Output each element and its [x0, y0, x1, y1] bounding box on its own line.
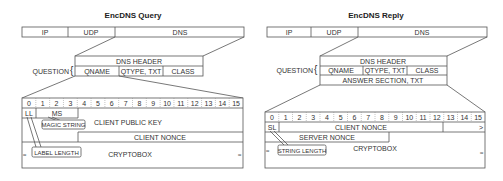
reply-byte-index: 12 — [433, 114, 441, 121]
ms-field: MS — [52, 110, 63, 117]
question-brace-icon: { — [314, 64, 318, 75]
string-length-callout: STRING LENGTH — [278, 148, 327, 154]
reply-byte-index: 5 — [339, 114, 343, 121]
query-byte-index: 3 — [68, 100, 72, 107]
query-title: EncDNS Query — [105, 11, 162, 20]
qname-label: QNAME — [84, 68, 110, 76]
encdns-reply-diagram: EncDNS Reply IP UDP DNS DNS HEADER QNAME… — [265, 11, 487, 168]
encdns-query-diagram: EncDNS Query IP UDP DNS DNS HEADER QNAME… — [22, 11, 244, 168]
query-byte-index: 12 — [191, 100, 199, 107]
question-label: QUESTION — [32, 68, 69, 76]
ip-label: IP — [286, 29, 293, 36]
dns-label: DNS — [415, 29, 430, 36]
server-nonce-field: SERVER NONCE — [299, 134, 355, 141]
reply-byte-index: 15 — [474, 114, 482, 121]
reply-answer-layout: 0123456789101112131415 SL CLIENT NONCE >… — [265, 112, 485, 168]
reply-byte-index: 8 — [380, 114, 384, 121]
query-byte-index: 13 — [205, 100, 213, 107]
reply-byte-index: 4 — [325, 114, 329, 121]
query-byte-index: 15 — [232, 100, 240, 107]
query-byte-index: 0 — [27, 100, 31, 107]
udp-label: UDP — [84, 29, 99, 36]
reply-byte-index: 6 — [352, 114, 356, 121]
reply-byte-index: 1 — [284, 114, 288, 121]
dns-header-label: DNS HEADER — [116, 58, 162, 65]
reply-byte-index: 9 — [394, 114, 398, 121]
query-byte-index: 9 — [151, 100, 155, 107]
client-nonce-field: CLIENT NONCE — [335, 124, 387, 131]
qname-label: QNAME — [328, 67, 354, 75]
reply-byte-index: 14 — [460, 114, 468, 121]
reply-byte-index: 0 — [270, 114, 274, 121]
continuation-arrow-icon: > — [479, 124, 483, 131]
client-nonce-field: CLIENT NONCE — [134, 134, 186, 141]
class-label: CLASS — [172, 68, 195, 75]
class-label: CLASS — [416, 67, 439, 74]
query-byte-index: 11 — [177, 100, 184, 107]
query-byte-index: 10 — [163, 100, 171, 107]
question-label: QUESTION — [276, 67, 313, 75]
reply-byte-index: 7 — [366, 114, 370, 121]
qtype-label: QTYPE, TXT — [365, 67, 406, 75]
magic-string-callout: MAGIC STRING — [41, 122, 85, 128]
cryptobox-field: CRYPTOBOX — [108, 151, 152, 158]
ip-label: IP — [42, 29, 49, 36]
query-byte-index: 6 — [110, 100, 114, 107]
query-byte-index: 4 — [82, 100, 86, 107]
dns-header-label: DNS HEADER — [360, 58, 406, 65]
query-byte-index: 7 — [124, 100, 128, 107]
query-byte-index: 14 — [218, 100, 226, 107]
udp-label: UDP — [327, 29, 342, 36]
reply-packet-bar: IP UDP DNS — [267, 27, 487, 37]
reply-byte-index: 10 — [405, 114, 413, 121]
dns-label: DNS — [173, 29, 188, 36]
query-byte-index: 1 — [41, 100, 45, 107]
sl-field: SL — [268, 124, 277, 131]
label-length-callout: LABEL LENGTH — [34, 150, 78, 156]
ll-field: LL — [25, 110, 33, 117]
question-brace-icon: { — [70, 65, 74, 76]
query-byte-index: 5 — [96, 100, 100, 107]
query-packet-bar: IP UDP DNS — [22, 27, 244, 37]
qtype-label: QTYPE, TXT — [121, 68, 162, 76]
query-qname-layout: 0123456789101112131415 LL MS CLIENT PUBL… — [22, 98, 243, 168]
reply-byte-index: 11 — [419, 114, 426, 121]
reply-byte-index: 13 — [447, 114, 455, 121]
reply-dns-message: DNS HEADER QNAME QTYPE, TXT CLASS ANSWER… — [276, 56, 447, 85]
reply-title: EncDNS Reply — [348, 11, 404, 20]
answer-section-label: ANSWER SECTION, TXT — [343, 77, 424, 84]
client-public-key-field: CLIENT PUBLIC KEY — [94, 119, 162, 126]
reply-byte-index: 2 — [297, 114, 301, 121]
query-byte-index: 8 — [137, 100, 141, 107]
cryptobox-field: CRYPTOBOX — [353, 145, 397, 152]
query-dns-message: DNS HEADER QNAME QTYPE, TXT CLASS QUESTI… — [32, 56, 203, 76]
query-byte-index: 2 — [55, 100, 59, 107]
reply-byte-index: 3 — [311, 114, 315, 121]
